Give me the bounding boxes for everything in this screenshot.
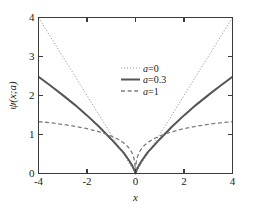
legend: a=0a=0.3a=1 xyxy=(121,63,166,97)
x-tick-label: 2 xyxy=(181,175,187,187)
curves-layer xyxy=(39,18,233,174)
x-tick-labels: -4-2024 xyxy=(34,175,236,187)
y-tick-label: 2 xyxy=(29,89,35,101)
y-tick-label: 3 xyxy=(29,50,35,62)
x-tick-label: 0 xyxy=(133,175,139,187)
y-tick-label: 1 xyxy=(29,128,35,140)
y-tick-label: 4 xyxy=(29,11,35,23)
axes-frame xyxy=(39,18,233,174)
figure-container: -4-2024 01234 x ψ(x;a) a=0a=0.3a=1 xyxy=(0,0,256,216)
legend-label-0: a=0 xyxy=(143,63,159,74)
legend-label-2: a=1 xyxy=(143,86,159,97)
line-chart: -4-2024 01234 x ψ(x;a) a=0a=0.3a=1 xyxy=(0,0,256,216)
tick-marks-layer xyxy=(39,18,233,174)
x-axis-title: x xyxy=(132,191,138,203)
x-tick-label: -4 xyxy=(34,175,44,187)
curve-a-0 xyxy=(39,18,233,174)
y-tick-label: 0 xyxy=(29,167,35,179)
x-tick-label: -2 xyxy=(82,175,91,187)
y-axis-title: ψ(x;a) xyxy=(6,81,19,110)
y-tick-labels: 01234 xyxy=(29,11,35,179)
curve-a-1 xyxy=(39,122,233,174)
x-tick-label: 4 xyxy=(230,175,236,187)
legend-label-1: a=0.3 xyxy=(143,74,166,85)
